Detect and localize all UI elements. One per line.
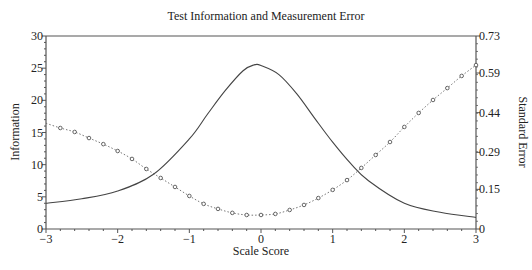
standard-error-marker xyxy=(202,202,206,206)
standard-error-marker xyxy=(73,130,77,134)
standard-error-marker xyxy=(188,194,192,198)
standard-error-marker xyxy=(231,211,235,215)
series-layer xyxy=(46,63,478,217)
standard-error-marker xyxy=(403,125,407,129)
x-tick-label: 2 xyxy=(401,232,407,246)
x-tick-label: 0 xyxy=(258,232,264,246)
y-tick-label-left: 0 xyxy=(37,222,43,236)
y-tick-label-right: 0.15 xyxy=(479,182,500,196)
standard-error-marker xyxy=(446,86,450,90)
standard-error-marker xyxy=(431,98,435,102)
standard-error-marker xyxy=(288,208,292,212)
standard-error-marker xyxy=(116,149,120,153)
y-tick-label-right: 0.59 xyxy=(479,66,500,80)
standard-error-marker xyxy=(345,178,349,182)
y-tick-label-left: 5 xyxy=(37,190,43,204)
standard-error-marker xyxy=(59,126,63,130)
standard-error-marker xyxy=(274,212,278,216)
standard-error-marker xyxy=(302,203,306,207)
standard-error-marker xyxy=(216,207,220,211)
standard-error-marker xyxy=(417,111,421,115)
standard-error-marker xyxy=(374,153,378,157)
standard-error-marker xyxy=(317,196,321,200)
standard-error-marker xyxy=(460,74,464,78)
standard-error-marker xyxy=(145,167,149,171)
y-tick-label-left: 15 xyxy=(31,126,43,140)
y-tick-label-right: 0.29 xyxy=(479,145,500,159)
x-tick-label: 1 xyxy=(330,232,336,246)
y-tick-label-right: 0.44 xyxy=(479,106,500,120)
standard-error-marker xyxy=(388,140,392,144)
standard-error-marker xyxy=(259,213,263,217)
information-curve xyxy=(46,64,476,217)
x-tick-label: −2 xyxy=(111,232,124,246)
standard-error-marker xyxy=(360,166,364,170)
standard-error-marker xyxy=(245,213,249,217)
standard-error-marker xyxy=(130,157,134,161)
standard-error-marker xyxy=(173,185,177,189)
standard-error-marker xyxy=(87,136,91,140)
standard-error-marker xyxy=(159,176,163,180)
standard-error-marker xyxy=(474,63,478,67)
y-tick-label-left: 25 xyxy=(31,61,43,75)
y-tick-label-left: 20 xyxy=(31,93,43,107)
y-tick-label-left: 30 xyxy=(31,29,43,43)
y-tick-label-right: 0.73 xyxy=(479,29,500,43)
chart-area: −3−2−1012305101520253000.150.290.440.590… xyxy=(0,0,532,270)
x-tick-label: −1 xyxy=(183,232,196,246)
standard-error-marker xyxy=(331,188,335,192)
standard-error-marker xyxy=(102,142,106,146)
y-tick-label-right: 0 xyxy=(479,222,485,236)
y-tick-label-left: 10 xyxy=(31,158,43,172)
axes: −3−2−1012305101520253000.150.290.440.590… xyxy=(31,29,500,246)
